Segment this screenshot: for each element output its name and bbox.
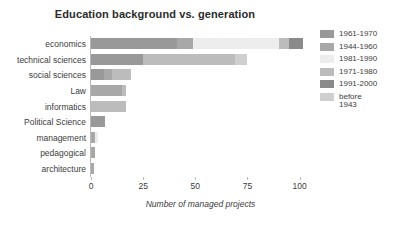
- y-axis-tick-label: economics: [2, 39, 86, 49]
- bar-segment[interactable]: [177, 38, 194, 49]
- legend-item[interactable]: 1981-1990: [320, 55, 396, 64]
- x-axis-title: Number of managed projects: [91, 199, 310, 209]
- legend-label: 1971-1980: [339, 68, 377, 77]
- legend-item[interactable]: 1961-1970: [320, 30, 396, 39]
- y-axis-tick-label: informatics: [2, 102, 86, 112]
- bar-row[interactable]: [91, 101, 126, 112]
- chart-title: Education background vs. generation: [0, 8, 310, 20]
- legend-label: 1944-1960: [339, 43, 377, 52]
- bar-row[interactable]: [91, 69, 131, 80]
- legend-color-swatch: [320, 93, 334, 101]
- bar-segment[interactable]: [235, 54, 248, 65]
- bar-segment[interactable]: [95, 132, 98, 143]
- bar-row[interactable]: [91, 85, 126, 96]
- bar-segment[interactable]: [279, 38, 289, 49]
- bar-row[interactable]: [91, 38, 303, 49]
- bar-segment[interactable]: [91, 116, 105, 127]
- chart-legend: 1961-19701944-19601981-19901971-19801991…: [320, 30, 396, 105]
- legend-label: before 1943: [339, 93, 362, 110]
- bar-segment[interactable]: [91, 85, 122, 96]
- bar-row[interactable]: [91, 54, 247, 65]
- x-axis-tick-mark: [300, 177, 301, 180]
- bar-segment[interactable]: [91, 69, 104, 80]
- bar-segment[interactable]: [112, 69, 131, 80]
- y-axis-tick-label: Law: [2, 86, 86, 96]
- bar-row[interactable]: [91, 116, 105, 127]
- x-axis-tick-label: 0: [89, 181, 94, 191]
- x-axis-tick-label: 25: [138, 181, 147, 191]
- bar-segment[interactable]: [91, 163, 94, 174]
- bar-segment[interactable]: [91, 54, 143, 65]
- y-axis-tick-label: technical sciences: [2, 55, 86, 65]
- legend-color-swatch: [320, 55, 334, 63]
- bar-row[interactable]: [91, 132, 98, 143]
- legend-label: 1961-1970: [339, 30, 377, 39]
- bar-segment[interactable]: [104, 69, 112, 80]
- legend-color-swatch: [320, 30, 334, 38]
- y-axis-tick-label: Political Science: [2, 117, 86, 127]
- legend-color-swatch: [320, 80, 334, 88]
- x-axis: 0255075100: [91, 177, 310, 197]
- x-axis-tick-mark: [247, 177, 248, 180]
- x-axis-tick-label: 50: [191, 181, 200, 191]
- bar-row[interactable]: [91, 163, 94, 174]
- bar-row[interactable]: [91, 147, 95, 158]
- legend-label: 1981-1990: [339, 55, 377, 64]
- legend-item[interactable]: 1944-1960: [320, 43, 396, 52]
- bar-segment[interactable]: [143, 54, 235, 65]
- x-axis-tick-label: 100: [292, 181, 306, 191]
- bar-segment[interactable]: [122, 85, 126, 96]
- y-axis-tick-label: architecture: [2, 164, 86, 174]
- x-axis-tick-mark: [143, 177, 144, 180]
- y-axis-tick-label: pedagogical: [2, 148, 86, 158]
- plot-area: [91, 36, 310, 176]
- legend-item[interactable]: 1971-1980: [320, 68, 396, 77]
- bar-segment[interactable]: [91, 101, 126, 112]
- x-axis-tick-mark: [195, 177, 196, 180]
- x-axis-tick-mark: [91, 177, 92, 180]
- bar-segment[interactable]: [193, 38, 279, 49]
- chart-figure: Education background vs. generation econ…: [0, 0, 398, 226]
- y-axis-tick-label: management: [2, 133, 86, 143]
- legend-color-swatch: [320, 68, 334, 76]
- y-axis-tick-label: social sciences: [2, 70, 86, 80]
- y-axis-tick-labels: economicstechnical sciencessocial scienc…: [0, 36, 86, 177]
- legend-color-swatch: [320, 43, 334, 51]
- x-axis-tick-label: 75: [243, 181, 252, 191]
- bar-segment[interactable]: [91, 147, 95, 158]
- legend-item[interactable]: 1991-2000: [320, 80, 396, 89]
- legend-label: 1991-2000: [339, 80, 377, 89]
- bar-segment[interactable]: [289, 38, 303, 49]
- bar-segment[interactable]: [91, 38, 177, 49]
- legend-item[interactable]: before 1943: [320, 93, 396, 102]
